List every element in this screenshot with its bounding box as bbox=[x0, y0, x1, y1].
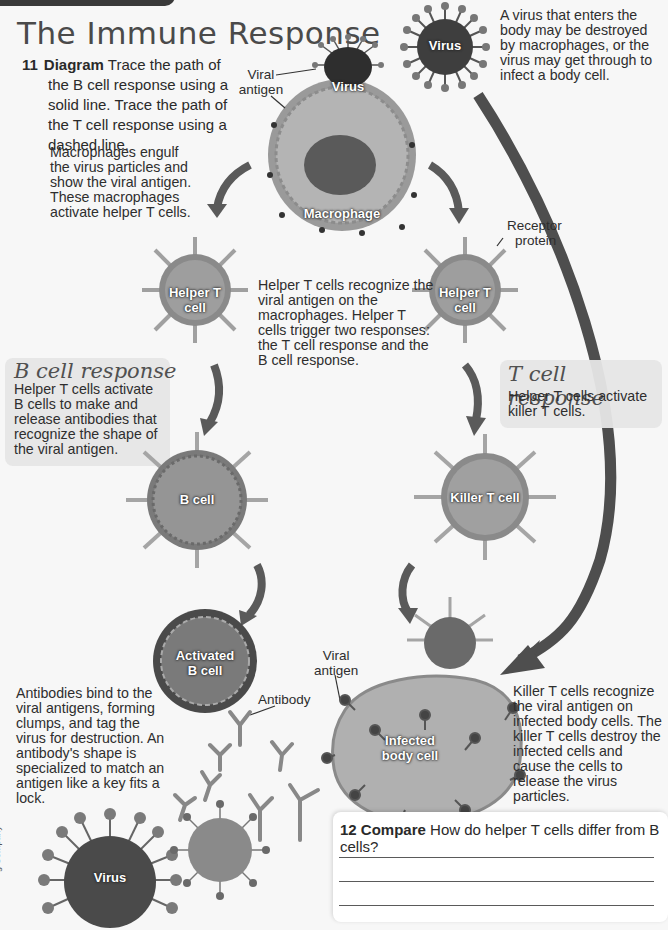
helper-t-left-label: Helper T cell bbox=[160, 285, 230, 315]
helper-t-right-label: Helper T cell bbox=[430, 285, 500, 315]
label-line-1: Helper T bbox=[160, 285, 230, 300]
killer-t-label: Killer T cell bbox=[440, 490, 530, 505]
label-line-2: body cell bbox=[370, 748, 450, 763]
label-line-2: cell bbox=[160, 300, 230, 315]
callout-line-2: antigen bbox=[236, 82, 286, 97]
label-line-2: cell bbox=[430, 300, 500, 315]
virus-intro-caption: A virus that enters the body may be dest… bbox=[500, 8, 660, 83]
killer-t-attached-icon bbox=[405, 595, 495, 675]
label-line-1: Activated bbox=[160, 648, 250, 663]
callout-line-1: Viral bbox=[314, 648, 358, 663]
flow-arrow-macrophage-to-helper-right bbox=[425, 160, 485, 230]
b-cell-response-heading: B cell response bbox=[14, 359, 176, 383]
answer-line-1[interactable] bbox=[339, 857, 654, 858]
flow-arrow-helper-to-killer bbox=[460, 360, 500, 440]
label-line-2: B cell bbox=[160, 663, 250, 678]
question-keyword: Compare bbox=[361, 821, 426, 838]
question-12: 12 Compare How do helper T cells differ … bbox=[340, 821, 662, 855]
macrophage-label: Macrophage bbox=[282, 206, 402, 221]
activated-b-label: Activated B cell bbox=[160, 648, 250, 678]
credit-margin-text: g Company bbox=[0, 826, 2, 872]
t-cell-response-text: Helper T cells activate killer T cells. bbox=[508, 389, 658, 419]
virus-label: Virus bbox=[412, 38, 478, 53]
virus-bottom-right-icon bbox=[170, 800, 270, 900]
answer-line-2[interactable] bbox=[339, 881, 654, 882]
antibodies-caption: Antibodies bind to the viral antigens, f… bbox=[16, 686, 166, 806]
label-line-1: Infected bbox=[370, 733, 450, 748]
receptor-protein-callout: Receptor protein bbox=[507, 218, 562, 248]
killer-t-caption: Killer T cells recognize the viral antig… bbox=[513, 684, 663, 804]
viral-antigen-callout-bottom: Viral antigen bbox=[314, 648, 358, 678]
callout-line-1: Viral bbox=[236, 67, 286, 82]
viral-antigen-callout: Viral antigen bbox=[236, 67, 286, 97]
label-line-1: Helper T bbox=[430, 285, 500, 300]
callout-line-2: antigen bbox=[314, 663, 358, 678]
helper-t-caption: Helper T cells recognize the viral antig… bbox=[258, 278, 438, 368]
flow-arrow-helper-to-bcell bbox=[192, 360, 232, 440]
question-number: 12 bbox=[340, 821, 357, 838]
virus-on-macrophage-label: Virus bbox=[318, 79, 378, 94]
callout-line-1: Receptor bbox=[507, 218, 562, 233]
infected-body-cell-label: Infected body cell bbox=[370, 733, 450, 763]
virus-bottom-label: Virus bbox=[80, 870, 140, 885]
callout-line-2: protein bbox=[507, 233, 562, 248]
answer-line-3[interactable] bbox=[339, 905, 654, 906]
macrophage-caption: Macrophages engulf the virus particles a… bbox=[50, 145, 200, 220]
flow-arrow-macrophage-to-helper-left bbox=[205, 160, 265, 220]
b-cell-label: B cell bbox=[162, 492, 232, 507]
